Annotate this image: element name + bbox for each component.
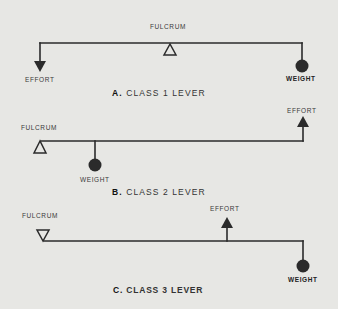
- class-2-fulcrum-label: FULCRUM: [21, 124, 57, 131]
- class-2-effort-label: EFFORT: [287, 107, 316, 114]
- class-1-weight-icon: [296, 60, 309, 73]
- class-3-lever-drawing: [37, 226, 303, 260]
- class-2-fulcrum-icon: [34, 141, 46, 153]
- class-3-fulcrum-icon: [37, 230, 49, 241]
- class-3-title-letter: C.: [113, 285, 123, 295]
- class-2-effort-arrow-icon: [297, 116, 309, 127]
- class-3-weight-label: WEIGHT: [288, 276, 318, 283]
- lever-drawings: [0, 0, 338, 309]
- class-1-title: A. CLASS 1 LEVER: [112, 88, 206, 98]
- class-1-effort-label: EFFORT: [25, 76, 54, 83]
- class-2-title-text: CLASS 2 LEVER: [126, 187, 206, 197]
- class-1-effort-arrow-icon: [34, 61, 46, 72]
- class-3-effort-label: EFFORT: [210, 205, 239, 212]
- class-1-weight-label: WEIGHT: [286, 75, 316, 82]
- class-2-weight-label: WEIGHT: [80, 176, 110, 183]
- class-1-title-letter: A.: [112, 88, 123, 98]
- class-1-title-text: CLASS 1 LEVER: [126, 88, 206, 98]
- class-1-fulcrum-icon: [164, 44, 176, 55]
- class-3-title: C. CLASS 3 LEVER: [113, 285, 203, 295]
- class-3-effort-arrow-icon: [221, 217, 233, 228]
- class-2-title-letter: B.: [112, 187, 123, 197]
- class-2-weight-icon: [89, 159, 102, 172]
- lever-classes-diagram: FULCRUM EFFORT WEIGHT A. CLASS 1 LEVER E…: [0, 0, 338, 309]
- class-3-title-text: CLASS 3 LEVER: [126, 285, 203, 295]
- class-1-lever-drawing: [40, 43, 302, 63]
- class-2-title: B. CLASS 2 LEVER: [112, 187, 206, 197]
- class-1-fulcrum-label: FULCRUM: [150, 23, 186, 30]
- class-3-weight-icon: [297, 260, 310, 273]
- class-2-lever-drawing: [34, 125, 303, 160]
- class-3-fulcrum-label: FULCRUM: [22, 212, 58, 219]
